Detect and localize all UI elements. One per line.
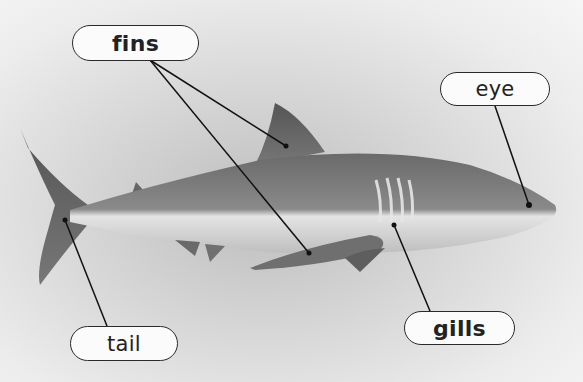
label-tail-text: tail xyxy=(107,332,141,356)
label-eye-text: eye xyxy=(475,77,514,101)
label-gills: gills xyxy=(404,311,515,345)
label-gills-text: gills xyxy=(433,316,486,341)
label-tail: tail xyxy=(70,326,178,361)
label-fins-text: fins xyxy=(112,31,159,56)
shark-diagram: fins eye gills tail xyxy=(0,0,583,382)
tail-fin xyxy=(20,128,90,285)
label-eye: eye xyxy=(440,72,550,106)
label-fins: fins xyxy=(72,25,199,61)
shark-body xyxy=(70,154,556,255)
